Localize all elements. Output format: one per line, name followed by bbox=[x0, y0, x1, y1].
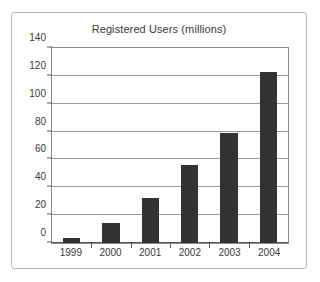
x-axis-labels-group: 199920002001200220032004 bbox=[51, 247, 289, 258]
y-axis-tick-label: 120 bbox=[29, 59, 52, 70]
bar-category-cell bbox=[170, 48, 209, 243]
bar-2000[interactable] bbox=[102, 223, 119, 243]
bar-2003[interactable] bbox=[220, 133, 237, 243]
bar-2004[interactable] bbox=[260, 72, 277, 243]
bar-category-cell bbox=[91, 48, 130, 243]
x-axis-label-2004: 2004 bbox=[249, 247, 289, 258]
y-axis-tick-label: 60 bbox=[35, 143, 52, 154]
y-axis-tick-label: 100 bbox=[29, 87, 52, 98]
chart-title: Registered Users (millions) bbox=[12, 23, 306, 35]
y-axis-tick-label: 40 bbox=[35, 171, 52, 182]
bar-category-cell bbox=[209, 48, 248, 243]
y-axis-tick-label: 20 bbox=[35, 199, 52, 210]
bar-category-cell bbox=[131, 48, 170, 243]
bar-2001[interactable] bbox=[142, 198, 159, 243]
y-axis-tick-label: 0 bbox=[40, 227, 52, 238]
x-axis-label-2003: 2003 bbox=[210, 247, 250, 258]
y-axis-tick-label: 140 bbox=[29, 32, 52, 43]
bar-2002[interactable] bbox=[181, 165, 198, 243]
bar-category-cell bbox=[52, 48, 91, 243]
x-axis-label-2000: 2000 bbox=[91, 247, 131, 258]
bars-group bbox=[52, 48, 288, 243]
chart-figure: Registered Users (millions) 020406080100… bbox=[11, 12, 307, 269]
y-axis-tick-label: 80 bbox=[35, 115, 52, 126]
plot-area: 020406080100120140 bbox=[51, 47, 289, 244]
x-axis-label-2001: 2001 bbox=[130, 247, 170, 258]
bar-category-cell bbox=[249, 48, 288, 243]
x-axis-label-1999: 1999 bbox=[51, 247, 91, 258]
x-axis-label-2002: 2002 bbox=[170, 247, 210, 258]
bar-1999[interactable] bbox=[63, 238, 80, 243]
